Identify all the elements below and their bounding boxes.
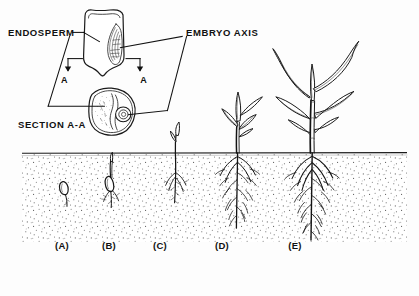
stage-caption-c: (C) bbox=[153, 240, 167, 251]
soil-layer bbox=[22, 153, 407, 242]
endosperm-label: ENDOSPERM bbox=[8, 27, 75, 38]
section-a-a-label: SECTION A-A bbox=[18, 119, 86, 130]
kernel-cross-section-drawing bbox=[89, 88, 135, 135]
embryo-axis-label: EMBRYO AXIS bbox=[186, 27, 258, 38]
figure-root: A A bbox=[0, 0, 419, 296]
stage-e-stem-edge bbox=[314, 101, 315, 153]
stage-caption-d: (D) bbox=[215, 240, 229, 251]
stage-caption-a: (A) bbox=[55, 240, 69, 251]
soil-fill bbox=[22, 154, 407, 242]
soil-surface-line bbox=[22, 153, 407, 154]
section-marker-a-left: A bbox=[61, 75, 68, 85]
stage-b-primary-root bbox=[111, 191, 112, 207]
whole-kernel-drawing bbox=[84, 10, 125, 76]
seed-germination-diagram: A A bbox=[0, 0, 419, 296]
section-embryo-inner-circle bbox=[122, 112, 126, 116]
stage-caption-e: (E) bbox=[288, 240, 302, 251]
stage-caption-b: (B) bbox=[102, 240, 116, 251]
section-marker-a-right: A bbox=[140, 75, 147, 85]
stage-e-stem bbox=[310, 100, 311, 153]
stage-a-seed bbox=[60, 182, 69, 195]
